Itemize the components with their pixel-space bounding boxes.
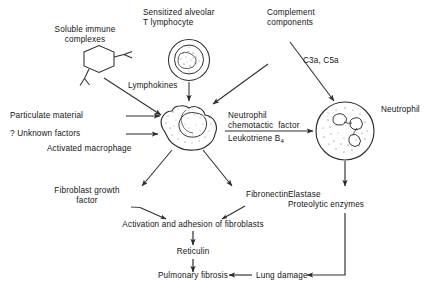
arrow-macrophage-to-fgf: [142, 150, 172, 186]
label-fibroblast-growth-factor: Fibroblast growth factor: [43, 186, 131, 206]
label-activation-adhesion-fibroblasts: Activation and adhesion of fibroblasts: [93, 220, 293, 230]
arrow-elastase-to-lungdamage: [307, 213, 345, 275]
label-elastase-proteolytic-enzymes: Elastase Proteolytic enzymes: [288, 190, 398, 210]
label-neutrophil-chemotactic-factor: Neutrophil chemotactic factor: [228, 111, 313, 131]
label-neutrophil: Neutrophil: [381, 105, 420, 115]
label-unknown-factors: ? Unknown factors: [10, 129, 80, 139]
neutrophil-cell: [316, 102, 374, 160]
label-pulmonary-fibrosis: Pulmonary fibrosis: [133, 271, 253, 281]
label-lung-damage: Lung damage: [256, 271, 308, 281]
label-activated-macrophage: Activated macrophage: [47, 144, 131, 154]
label-particulate-material: Particulate material: [10, 111, 83, 121]
arrow-fgf-to-activation: [140, 208, 166, 220]
activated-macrophage-cell: [161, 106, 217, 150]
label-sensitized-alveolar-t-lymphocyte: Sensitized alveolar T lymphocyte: [143, 8, 243, 28]
label-reticulin: Reticulin: [153, 247, 233, 257]
t-lymphocyte-cell: [169, 40, 210, 81]
label-complement-components: Complement components: [267, 8, 357, 28]
arrow-complement-to-macrophage: [213, 64, 268, 104]
leukotriene-subscript: 4: [280, 137, 284, 144]
arrow-macrophage-to-fibronectin: [203, 150, 232, 186]
label-fibronectin: Fibronectin: [246, 190, 288, 200]
label-leukotriene-b4: Leukotriene B4: [228, 134, 284, 144]
leukotriene-text: Leukotriene B: [228, 134, 280, 143]
arrow-complement-to-neutrophil: [290, 42, 334, 101]
label-soluble-immune-complexes: Soluble immune complexes: [35, 25, 135, 45]
label-c3a-c5a: C3a, C5a: [303, 56, 339, 66]
label-lymphokines: Lymphokines: [128, 81, 178, 91]
arrow-fibronectin-to-activation: [222, 206, 245, 219]
